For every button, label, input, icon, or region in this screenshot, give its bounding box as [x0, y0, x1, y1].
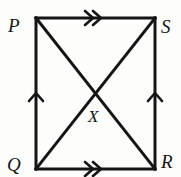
geometry-canvas — [0, 0, 181, 177]
vertex-label-r: R — [161, 152, 173, 171]
geometry-figure: P S R Q X — [0, 0, 181, 177]
vertex-label-p: P — [8, 16, 20, 35]
vertex-label-s: S — [161, 17, 171, 36]
vertex-label-q: Q — [7, 155, 21, 174]
intersection-label-x: X — [88, 108, 98, 125]
